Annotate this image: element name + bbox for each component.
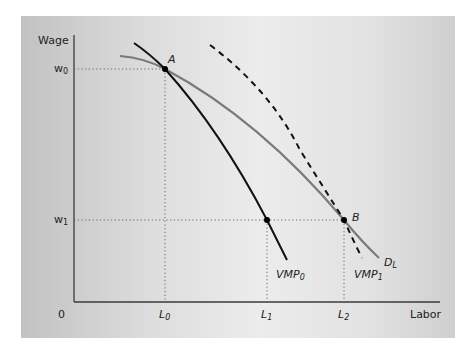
guide-lines [74,69,344,302]
tick-L2: L2 [338,308,349,322]
tick-w0: w0 [54,62,68,76]
vmp0-curve [134,43,287,260]
label-DL: DL [384,256,397,270]
label-vmp1: VMP1 [354,268,383,282]
point-A [162,66,168,72]
y-axis-label: Wage [38,34,69,47]
x-axis-label: Labor [410,308,442,321]
tick-L0: L0 [159,308,170,322]
tick-L1: L1 [261,308,272,322]
point-B [341,217,347,223]
tick-w1: w1 [54,213,68,227]
vmp1-curve [210,45,362,258]
label-vmp0: VMP0 [276,268,305,282]
point-L1-w1 [264,217,270,223]
label-A: A [167,53,176,66]
labor-demand-chart: Wage Labor 0 w0 w1 L0 L1 L2 A B VMP0 VMP… [0,0,475,359]
origin-label: 0 [58,308,65,321]
demand-curve-DL [120,56,379,258]
label-B: B [352,211,360,224]
